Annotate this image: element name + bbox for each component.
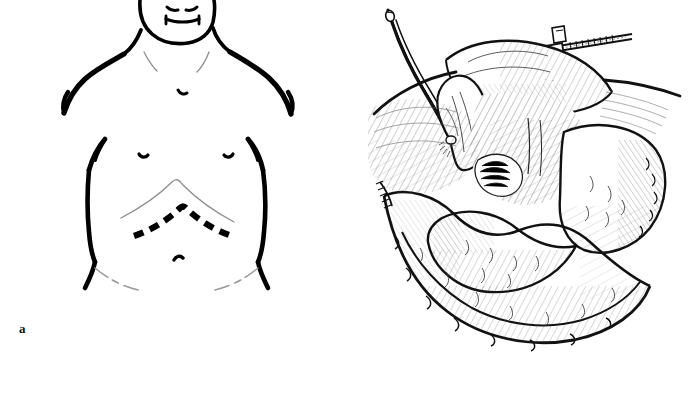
stomach-body (560, 125, 674, 254)
hip-outline-right (258, 262, 268, 288)
sternal-notch-mark (178, 90, 187, 94)
surgical-field-illustration (350, 0, 700, 397)
inguinal-crease-left (95, 268, 138, 290)
neck-outline-right (213, 28, 230, 52)
nipple-mark-right (224, 154, 233, 157)
hip-outline-left (85, 262, 95, 288)
shoulder-outline-right (230, 52, 291, 114)
mouth-lips-marks (167, 7, 178, 10)
panel-label-a: a (19, 322, 26, 335)
neck-outline-left (124, 30, 141, 54)
mouth-line (166, 19, 199, 22)
panel-b: b (350, 0, 700, 397)
clamp-handle (552, 26, 566, 43)
cystic-duct-stump (475, 154, 522, 196)
shoulder-outline-left (64, 54, 124, 113)
costal-margin-faint-line (121, 180, 234, 222)
clavicle-line-left (144, 52, 157, 71)
umbilicus-mark (174, 256, 183, 260)
chevron-dashed-incision-line[interactable] (134, 207, 232, 237)
panel-a: a (0, 0, 350, 397)
torso-line-drawing (0, 0, 350, 397)
figure-root: a (0, 0, 700, 397)
clavicle-line-right (197, 52, 209, 72)
flank-outline-right (258, 170, 265, 262)
mouth-lips-marks-right (186, 7, 197, 10)
flank-outline-left (88, 170, 96, 262)
catheter-tip-dot (386, 8, 389, 11)
inguinal-crease-right (215, 268, 258, 290)
nipple-mark-left (139, 154, 148, 157)
